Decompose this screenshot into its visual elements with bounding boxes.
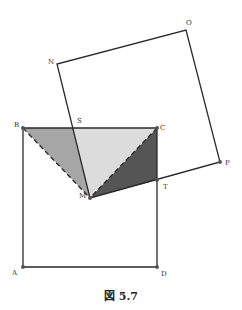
label-P: P — [225, 159, 230, 167]
label-C: C — [160, 124, 165, 132]
label-D: D — [161, 270, 167, 278]
label-A: A — [11, 269, 18, 277]
label-B: B — [14, 121, 19, 129]
label-M: M — [79, 192, 86, 200]
label-T: T — [163, 183, 168, 191]
label-O: O — [186, 19, 192, 27]
label-N: N — [48, 58, 54, 66]
figure-caption: 図 5.7 — [0, 287, 242, 303]
label-S: S — [77, 117, 82, 125]
geometry-figure: B S C M T P N O A D — [0, 0, 242, 310]
